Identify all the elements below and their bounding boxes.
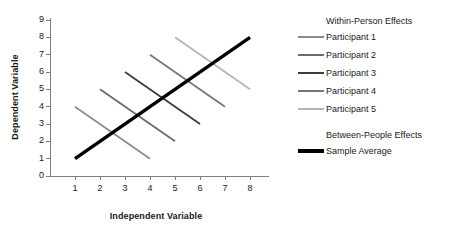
x-tick-label: 1 [67,183,83,193]
y-tick-label: 1 [26,153,44,163]
legend-item-label: Participant 1 [324,32,376,42]
x-tick-label: 4 [142,183,158,193]
y-tick-label: 5 [26,83,44,93]
plot-area: 0123456789 12345678 Dependent Variable I… [0,0,290,235]
legend-item-label: Sample Average [324,146,392,156]
legend-line-swatch-icon [298,149,324,152]
legend-item[interactable]: Sample Average [298,142,453,160]
x-tick-label: 5 [167,183,183,193]
legend-item[interactable]: Participant 1 [298,28,453,46]
chart-legend: Within-Person EffectsParticipant 1Partic… [298,16,453,160]
y-tick-label: 8 [26,31,44,41]
legend-group-header: Between-People Effects [326,130,453,140]
legend-item-label: Participant 3 [324,68,376,78]
legend-item[interactable]: Participant 3 [298,64,453,82]
x-tick-label: 6 [192,183,208,193]
y-tick-label: 4 [26,101,44,111]
data-series-group [75,37,250,158]
legend-line-swatch-icon [298,90,324,92]
y-tick-label: 2 [26,135,44,145]
y-tick-label: 3 [26,118,44,128]
y-tick-label: 9 [26,14,44,24]
legend-item[interactable]: Participant 2 [298,46,453,64]
legend-item-label: Participant 4 [324,86,376,96]
series-line-6 [75,37,250,158]
legend-item[interactable]: Participant 4 [298,82,453,100]
x-axis-title: Independent Variable [50,211,262,221]
legend-line-swatch-icon [298,54,324,56]
y-tick-label: 0 [26,170,44,180]
legend-line-swatch-icon [298,36,324,38]
x-tick-label: 8 [242,183,258,193]
x-tick-label: 7 [217,183,233,193]
y-tick-label: 7 [26,49,44,59]
legend-line-swatch-icon [298,72,324,74]
legend-line-swatch-icon [298,108,324,110]
y-axis-title: Dependent Variable [10,37,20,157]
legend-group-header: Within-Person Effects [326,16,453,26]
chart-figure: 0123456789 12345678 Dependent Variable I… [0,0,455,235]
legend-item[interactable]: Participant 5 [298,100,453,118]
legend-item-label: Participant 2 [324,50,376,60]
y-tick-label: 6 [26,66,44,76]
x-tick-label: 3 [117,183,133,193]
legend-item-label: Participant 5 [324,104,376,114]
x-tick-label: 2 [92,183,108,193]
